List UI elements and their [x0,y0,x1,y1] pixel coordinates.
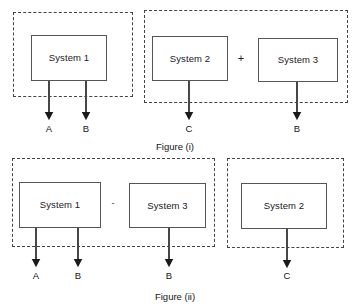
signal-label-fig1-c: C [178,124,200,134]
block-label: System 2 [264,201,304,211]
block-label: System 1 [40,200,80,210]
signal-label-fig1-b2: B [286,124,308,134]
caption-figure-i: Figure (i) [115,142,235,152]
block-fig2-system-2[interactable]: System 2 [241,183,327,229]
operator-plus-fig1: + [234,53,248,64]
signal-label-fig1-b: B [75,124,97,134]
block-label: System 3 [147,201,187,211]
block-fig1-system-3[interactable]: System 3 [258,38,338,82]
block-fig1-system-2[interactable]: System 2 [152,36,228,81]
block-label: System 3 [278,55,318,65]
signal-label-fig2-c: C [276,271,298,281]
block-fig2-system-1[interactable]: System 1 [19,182,101,228]
caption-figure-ii: Figure (ii) [115,292,235,302]
diagram-canvas: System 1 System 2 + System 3 A B C B Fig… [0,0,352,308]
signal-label-fig2-b: B [67,271,89,281]
block-fig2-system-3[interactable]: System 3 [129,183,206,228]
signal-label-fig2-a: A [25,271,47,281]
block-label: System 1 [49,53,89,63]
signal-label-fig2-b2: B [158,271,180,281]
block-label: System 2 [170,54,210,64]
block-fig1-system-1[interactable]: System 1 [31,35,107,81]
operator-minus-fig2: - [107,199,119,208]
signal-label-fig1-a: A [38,124,60,134]
